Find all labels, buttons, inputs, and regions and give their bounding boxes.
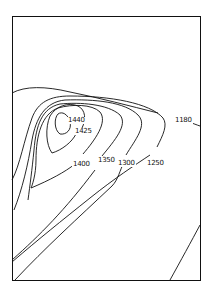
contour-label-1400: 1400 [72,161,91,168]
contour-diagram [0,0,211,296]
contour-line-lower-right [170,225,200,280]
contour-line-1350 [12,103,122,260]
contour-label-1440: 1440 [67,117,86,124]
contour-label-1425: 1425 [74,128,93,135]
contour-label-1350: 1350 [97,157,116,164]
contour-label-1250: 1250 [146,160,165,167]
map-frame [13,17,201,281]
contour-label-1180: 1180 [174,117,193,124]
contour-label-1300: 1300 [117,160,136,167]
